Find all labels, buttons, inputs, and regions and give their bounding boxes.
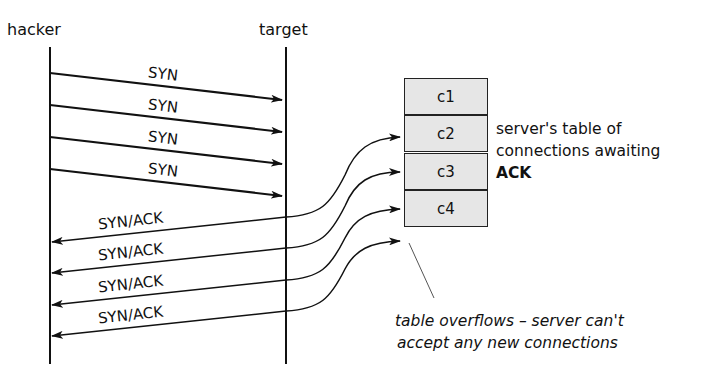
table-row-c1: c1 — [404, 78, 488, 115]
syn-label-2: SYN — [147, 97, 178, 115]
table-note-line1: server's table of — [496, 118, 660, 140]
table-note-ack: ACK — [496, 164, 531, 182]
overflow-note-line1: table overflows – server can't — [395, 310, 624, 332]
overflow-note: table overflows – server can't accept an… — [395, 310, 624, 354]
syn-label-4: SYN — [147, 161, 178, 179]
table-row-c4: c4 — [404, 190, 488, 227]
table-row-c2: c2 — [404, 115, 488, 152]
syn-label-1: SYN — [147, 65, 178, 83]
hacker-label: hacker — [7, 22, 61, 38]
table-note-line2: connections awaiting — [496, 140, 660, 162]
table-note: server's table of connections awaiting A… — [496, 118, 660, 184]
overflow-pointer — [409, 243, 434, 298]
overflow-note-line2: accept any new connections — [395, 332, 624, 354]
table-row-c3: c3 — [404, 153, 488, 190]
target-label: target — [259, 22, 308, 38]
syn-label-3: SYN — [147, 129, 178, 147]
